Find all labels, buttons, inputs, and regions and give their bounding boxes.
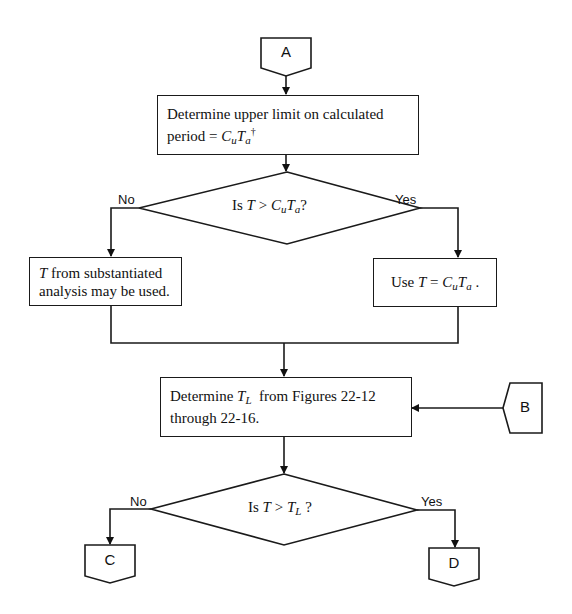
decision-1-no-label: No <box>118 192 135 207</box>
step-substantiated-line1: T from substantiated <box>39 264 181 282</box>
step-determine-tl-line1: Determine TL from Figures 22-12 <box>170 387 411 409</box>
step-determine-tl-line2: through 22-16. <box>170 409 411 427</box>
step-upper-limit: Determine upper limit on calculated peri… <box>157 95 419 155</box>
connector-b: B <box>508 398 542 415</box>
step-substantiated-line2: analysis may be used. <box>39 282 181 300</box>
step-upper-limit-line2: period = CuTa† <box>167 123 418 149</box>
decision-2-no-label: No <box>130 494 147 509</box>
connector-c: C <box>85 551 135 568</box>
connector-a: A <box>261 43 311 60</box>
footnote-dagger: † <box>251 126 256 137</box>
decision-2-yes-label: Yes <box>421 494 442 509</box>
step-determine-tl: Determine TL from Figures 22-12 through … <box>160 377 412 437</box>
flowchart-lines <box>0 0 572 614</box>
step-use-cuta: Use T = CuTa . <box>373 258 497 307</box>
step-substantiated-analysis: T from substantiated analysis may be use… <box>29 257 182 306</box>
decision-2-text: Is T > TL ? <box>248 499 312 517</box>
connector-d: D <box>429 554 479 571</box>
decision-1-yes-label: Yes <box>395 192 416 207</box>
decision-1-text: Is T > CuTa? <box>232 197 307 215</box>
step-upper-limit-line1: Determine upper limit on calculated <box>167 105 418 123</box>
